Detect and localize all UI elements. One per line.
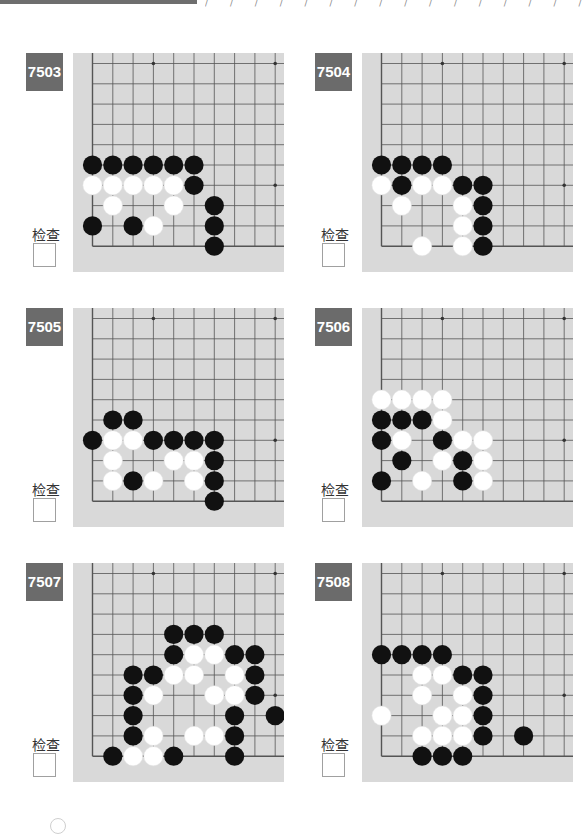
header-bar (0, 0, 197, 4)
star-point-icon (152, 572, 156, 576)
white-stone (144, 216, 163, 235)
problem-number-badge: 7508 (315, 563, 352, 601)
black-stone (124, 410, 143, 429)
star-point-icon (152, 317, 156, 321)
white-stone (83, 176, 102, 195)
white-stone (205, 726, 224, 745)
white-stone (144, 686, 163, 705)
black-stone (205, 471, 224, 490)
white-stone (413, 686, 432, 705)
black-stone (473, 237, 492, 256)
check-label: 检查 (321, 224, 349, 244)
white-stone (413, 726, 432, 745)
check-checkbox[interactable] (33, 498, 56, 522)
black-stone (124, 155, 143, 174)
white-stone (103, 451, 122, 470)
white-stone (453, 237, 472, 256)
black-stone (164, 431, 183, 450)
check-label: 检查 (321, 479, 349, 499)
black-stone (225, 726, 244, 745)
white-stone (184, 726, 203, 745)
white-stone (205, 686, 224, 705)
white-stone (433, 451, 452, 470)
problem-7508: 7508 检查 (315, 563, 587, 788)
white-stone (144, 747, 163, 766)
check-checkbox[interactable] (322, 243, 345, 267)
white-stone (184, 665, 203, 684)
black-stone (124, 686, 143, 705)
go-board[interactable] (73, 563, 284, 782)
black-stone (473, 686, 492, 705)
black-stone (245, 645, 264, 664)
white-stone (433, 390, 452, 409)
white-stone (124, 747, 143, 766)
black-stone (205, 625, 224, 644)
white-stone (372, 706, 391, 725)
black-stone (83, 155, 102, 174)
go-board[interactable] (73, 308, 284, 527)
go-board[interactable] (362, 563, 573, 782)
star-point-icon (273, 694, 277, 698)
black-stone (245, 665, 264, 684)
black-stone (184, 431, 203, 450)
black-stone (453, 451, 472, 470)
black-stone (372, 431, 391, 450)
black-stone (392, 645, 411, 664)
white-stone (453, 706, 472, 725)
problem-number-badge: 7507 (26, 563, 63, 601)
black-stone (205, 492, 224, 511)
black-stone (225, 645, 244, 664)
black-stone (433, 155, 452, 174)
black-stone (372, 155, 391, 174)
problem-7504: 7504 检查 (315, 53, 587, 278)
black-stone (124, 726, 143, 745)
white-stone (453, 686, 472, 705)
problem-number-badge: 7505 (26, 308, 63, 346)
white-stone (164, 176, 183, 195)
black-stone (103, 410, 122, 429)
white-stone (413, 471, 432, 490)
check-checkbox[interactable] (33, 753, 56, 777)
black-stone (473, 726, 492, 745)
black-stone (124, 706, 143, 725)
white-stone (124, 176, 143, 195)
go-board[interactable] (362, 53, 573, 272)
white-stone (144, 471, 163, 490)
check-checkbox[interactable] (322, 498, 345, 522)
black-stone (184, 155, 203, 174)
check-checkbox[interactable] (322, 753, 345, 777)
black-stone (225, 706, 244, 725)
black-stone (103, 155, 122, 174)
white-stone (103, 176, 122, 195)
star-point-icon (441, 62, 445, 66)
white-stone (473, 431, 492, 450)
black-stone (124, 216, 143, 235)
problem-number-badge: 7504 (315, 53, 352, 91)
white-stone (392, 390, 411, 409)
black-stone (453, 665, 472, 684)
white-stone (433, 726, 452, 745)
check-checkbox[interactable] (33, 243, 56, 267)
black-stone (266, 706, 284, 725)
black-stone (392, 155, 411, 174)
white-stone (433, 176, 452, 195)
star-point-icon (273, 317, 277, 321)
star-point-icon (562, 317, 566, 321)
black-stone (413, 747, 432, 766)
black-stone (413, 410, 432, 429)
white-stone (413, 665, 432, 684)
white-stone (164, 665, 183, 684)
white-stone (103, 196, 122, 215)
black-stone (164, 155, 183, 174)
black-stone (392, 410, 411, 429)
black-stone (144, 431, 163, 450)
white-stone (164, 451, 183, 470)
white-stone (453, 726, 472, 745)
black-stone (453, 176, 472, 195)
star-point-icon (152, 62, 156, 66)
board-grid (362, 563, 573, 782)
white-stone (413, 390, 432, 409)
go-board[interactable] (73, 53, 284, 272)
star-point-icon (273, 439, 277, 443)
go-board[interactable] (362, 308, 573, 527)
